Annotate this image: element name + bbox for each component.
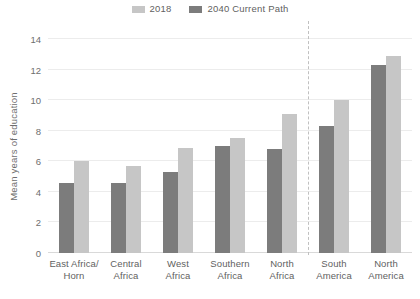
x-axis-label: West Africa	[152, 258, 204, 281]
y-tick-label-14: 14	[30, 35, 41, 45]
bar	[319, 126, 334, 253]
bar	[74, 161, 89, 253]
bar	[230, 138, 245, 253]
y-axis-title-text: Mean years of education	[8, 92, 19, 201]
bar-group	[152, 148, 204, 253]
bar-group	[308, 100, 360, 253]
bar	[163, 172, 178, 253]
x-axis-label: North Africa	[256, 258, 308, 281]
chart-legend: 2018 2040 Current Path	[0, 1, 420, 17]
bar-group	[204, 138, 256, 253]
bar-chart: 2018 2040 Current Path Mean years of edu…	[0, 0, 420, 299]
bar-group	[100, 166, 152, 253]
legend-item-2040-current-path: 2040 Current Path	[189, 4, 288, 14]
legend-label-2018: 2018	[150, 4, 172, 14]
y-tick-label-12: 12	[30, 65, 41, 75]
y-tick-label-4: 4	[36, 188, 41, 198]
bar-group	[256, 114, 308, 253]
y-tick-label-0: 0	[36, 249, 41, 259]
y-tick-label-6: 6	[36, 157, 41, 167]
legend-swatch-2018	[132, 6, 145, 13]
y-tick-label-8: 8	[36, 126, 41, 136]
legend-label-2040-current-path: 2040 Current Path	[207, 4, 288, 14]
bar-group	[360, 56, 412, 253]
legend-item-2018: 2018	[132, 4, 172, 14]
bar	[371, 65, 386, 253]
bar	[386, 56, 401, 253]
y-axis-title: Mean years of education	[6, 39, 20, 253]
bar	[282, 114, 297, 253]
bar-group	[48, 161, 100, 253]
bar	[334, 100, 349, 253]
bar	[178, 148, 193, 253]
y-tick-label-2: 2	[36, 218, 41, 228]
bar	[267, 149, 282, 253]
gridline-12	[48, 69, 412, 70]
legend-swatch-2040-current-path	[189, 6, 202, 13]
bar	[59, 183, 74, 253]
y-tick-label-10: 10	[30, 96, 41, 106]
x-axis-label: Central Africa	[100, 258, 152, 281]
bar	[111, 183, 126, 253]
gridline-14	[48, 38, 412, 39]
x-axis-label: East Africa/ Horn	[48, 258, 100, 281]
bar	[126, 166, 141, 253]
x-axis-label: Southern Africa	[204, 258, 256, 281]
plot-area: 02468101214	[48, 39, 412, 253]
bar	[215, 146, 230, 253]
x-axis-label: North America	[360, 258, 412, 281]
x-axis-label: South America	[308, 258, 360, 281]
region-divider-line	[308, 21, 309, 255]
